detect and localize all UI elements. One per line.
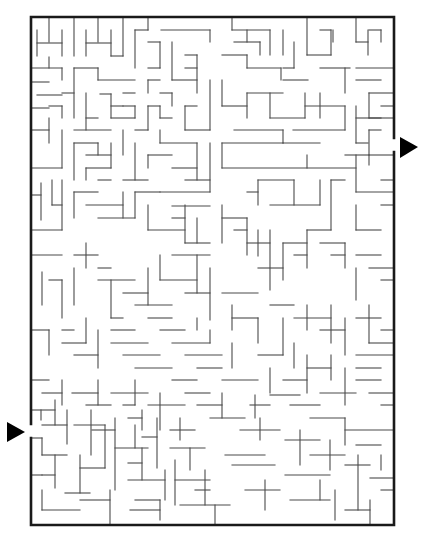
entrance-arrow-icon bbox=[7, 422, 25, 442]
maze-walls bbox=[31, 17, 394, 525]
exit-arrow-icon bbox=[400, 137, 418, 158]
maze-canvas bbox=[0, 0, 434, 541]
